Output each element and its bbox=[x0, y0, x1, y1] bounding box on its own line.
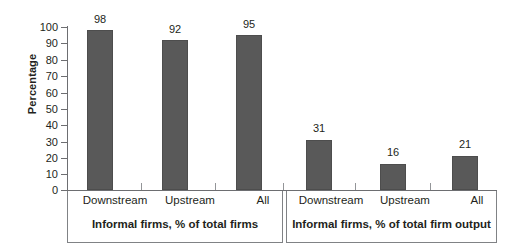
y-tick-label: 30 bbox=[12, 136, 58, 148]
y-tick-label: 90 bbox=[12, 37, 58, 49]
category-row: Downstream Upstream All bbox=[287, 194, 496, 216]
bar-g2-upstream bbox=[380, 164, 406, 190]
plot-area: 98 92 95 31 16 21 bbox=[67, 27, 497, 190]
bar-value-label: 98 bbox=[77, 13, 123, 25]
bar-value-label: 21 bbox=[442, 138, 488, 150]
category-label-all: All bbox=[432, 194, 519, 206]
y-tick-label: 40 bbox=[12, 119, 58, 131]
y-tick-label: 20 bbox=[12, 152, 58, 164]
bar-g2-all bbox=[452, 156, 478, 190]
bar-value-label: 92 bbox=[152, 23, 198, 35]
bar-value-label: 95 bbox=[226, 18, 272, 30]
bar-g1-all bbox=[236, 35, 262, 190]
y-tick-label: 10 bbox=[12, 168, 58, 180]
bar-value-label: 16 bbox=[370, 146, 416, 158]
y-tick-label: 70 bbox=[12, 70, 58, 82]
group-title-informal-firm-output: Informal firms, % of total firm output bbox=[287, 218, 496, 230]
category-row: Downstream Upstream All bbox=[68, 194, 282, 216]
y-tick-label: 50 bbox=[12, 103, 58, 115]
y-tick-label: 80 bbox=[12, 54, 58, 66]
bar-g1-downstream bbox=[87, 30, 113, 190]
y-tick-label: 60 bbox=[12, 87, 58, 99]
y-tick-label: 0 bbox=[12, 184, 58, 196]
bar-chart: Percentage 100 90 80 70 60 50 40 30 20 1… bbox=[0, 0, 519, 247]
group-box-informal-firms: Downstream Upstream All Informal firms, … bbox=[67, 191, 283, 243]
group-title-informal-firms: Informal firms, % of total firms bbox=[68, 218, 282, 230]
bar-g2-downstream bbox=[306, 140, 332, 191]
group-box-informal-firm-output: Downstream Upstream All Informal firms, … bbox=[286, 191, 497, 243]
y-tick-label: 100 bbox=[12, 21, 58, 33]
bar-value-label: 31 bbox=[296, 122, 342, 134]
bar-g1-upstream bbox=[162, 40, 188, 190]
